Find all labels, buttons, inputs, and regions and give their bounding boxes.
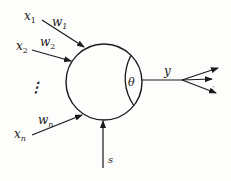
input-label-1: x1 (24, 9, 36, 25)
threshold-label: θ (128, 76, 135, 89)
output-branch-1 (182, 68, 218, 80)
external-input-label: s (108, 154, 113, 165)
weight-label-2: w2 (40, 35, 55, 51)
output-branch-2 (182, 79, 212, 80)
weight-label-1: w1 (52, 15, 67, 31)
input-label-n: xn (14, 127, 26, 143)
output-label: y (163, 64, 171, 78)
input-ellipsis: ⋮ (29, 79, 43, 95)
neuron-svg: x1 w1 x2 w2 ⋮ xn wn θ y ⋮ s (0, 0, 231, 181)
neuron-diagram: x1 w1 x2 w2 ⋮ xn wn θ y ⋮ s (0, 0, 231, 181)
input-label-2: x2 (16, 39, 28, 55)
weight-label-n: wn (38, 113, 53, 129)
input-arrow-2 (32, 50, 71, 61)
output-ellipsis: ⋮ (208, 85, 216, 94)
